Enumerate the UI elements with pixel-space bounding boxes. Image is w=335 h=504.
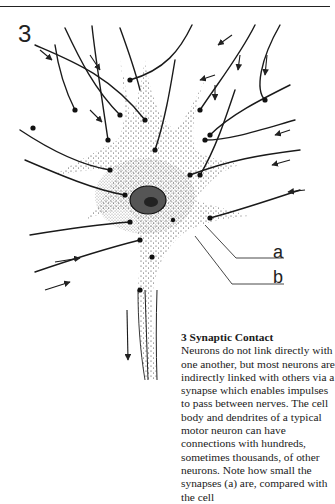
leader-lines xyxy=(195,225,284,284)
label-b-cell-body: b xyxy=(273,268,283,286)
label-a-synapse: a xyxy=(273,243,283,261)
caption-body: Neurons do not link directly with one an… xyxy=(181,344,335,504)
caption-title: 3 Synaptic Contact xyxy=(181,331,335,344)
nucleus xyxy=(130,186,166,214)
figure-caption: 3 Synaptic Contact Neurons do not link d… xyxy=(181,331,335,504)
